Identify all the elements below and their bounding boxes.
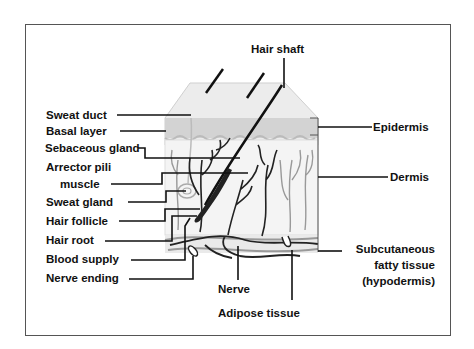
label-dermis: Dermis [390,171,429,184]
epidermis-layer [165,118,318,138]
label-hypodermis: (hypodermis) [345,275,435,288]
label-sebaceous-gland: Sebaceous gland [45,142,140,155]
label-sweat-duct: Sweat duct [46,109,107,122]
label-sweat-gland: Sweat gland [46,196,113,209]
label-adipose-tissue: Adipose tissue [218,307,300,320]
label-hair-root: Hair root [46,234,94,247]
label-arrector-pili-muscle: muscle [60,178,100,191]
label-basal-layer: Basal layer [46,125,107,138]
label-nerve: Nerve [218,283,250,296]
label-epidermis: Epidermis [373,121,429,134]
label-nerve-ending: Nerve ending [46,272,119,285]
label-arrector-pili: Arrector pili [46,161,111,174]
label-subcutaneous: Subcutaneous [345,243,435,256]
label-hair-follicle: Hair follicle [46,215,108,228]
label-hair-shaft: Hair shaft [251,43,304,56]
label-blood-supply: Blood supply [46,253,119,266]
label-fatty-tissue: fatty tissue [345,259,435,272]
